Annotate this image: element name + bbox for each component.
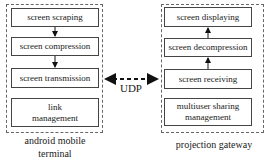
udp-label: UDP xyxy=(116,82,146,95)
udp-text: UDP xyxy=(120,82,142,94)
